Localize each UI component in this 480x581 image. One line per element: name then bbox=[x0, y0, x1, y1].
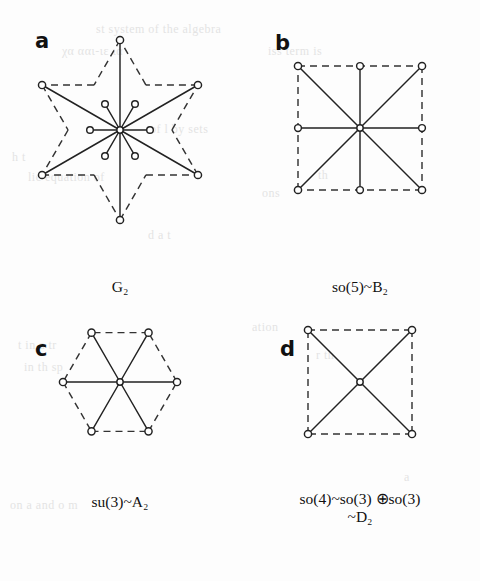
long-root-vector bbox=[120, 85, 198, 130]
origin-node bbox=[357, 125, 363, 131]
long-root-vector bbox=[298, 128, 360, 190]
panel-b-caption: so(5)~B₂ bbox=[240, 278, 480, 296]
panel-d-diagram bbox=[240, 310, 480, 470]
panel-a-letter: a bbox=[35, 31, 49, 52]
short-root-node bbox=[132, 153, 139, 160]
long-root-node bbox=[194, 171, 201, 178]
long-root-vector bbox=[42, 85, 120, 130]
panel-d-caption-line-2: ~D₂ bbox=[240, 508, 480, 526]
hexagram-boundary-edge bbox=[94, 40, 120, 85]
panel-a: a G₂ bbox=[0, 0, 240, 310]
root-vector bbox=[92, 333, 121, 382]
short-root-node bbox=[147, 127, 154, 134]
short-root-node bbox=[419, 125, 426, 132]
panel-d-letter: d bbox=[280, 339, 295, 360]
root-vector bbox=[308, 330, 360, 382]
root-node bbox=[408, 430, 415, 437]
short-root-node bbox=[132, 101, 139, 108]
root-node bbox=[304, 326, 311, 333]
panel-c-letter: c bbox=[35, 339, 47, 360]
root-vector bbox=[92, 382, 121, 431]
long-root-vector bbox=[298, 66, 360, 128]
short-root-node bbox=[102, 153, 109, 160]
panel-c-diagram bbox=[0, 310, 240, 470]
root-vector bbox=[360, 382, 412, 434]
root-vector bbox=[308, 382, 360, 434]
root-node bbox=[59, 378, 66, 385]
origin-node bbox=[117, 127, 123, 133]
hexagram-boundary-edge bbox=[120, 40, 146, 85]
root-node bbox=[145, 329, 152, 336]
long-root-node bbox=[418, 186, 425, 193]
root-vector bbox=[360, 330, 412, 382]
long-root-node bbox=[418, 62, 425, 69]
root-node bbox=[145, 428, 152, 435]
root-system-figure: a G₂ b so(5)~B₂ c su(3)~A₂ d bbox=[0, 0, 480, 581]
panel-a-caption: G₂ bbox=[0, 278, 240, 296]
origin-node bbox=[357, 379, 363, 385]
long-root-vector bbox=[120, 130, 198, 175]
long-root-node bbox=[116, 36, 123, 43]
long-root-vector bbox=[42, 130, 120, 175]
root-node bbox=[173, 378, 180, 385]
panel-d-caption-line-1: so(4)~so(3) ⊕so(3) bbox=[240, 490, 480, 508]
hexagram-boundary-edge bbox=[94, 175, 120, 220]
hexagon-boundary-edge bbox=[63, 382, 92, 431]
panel-b-letter: b bbox=[275, 33, 290, 54]
root-vector bbox=[120, 333, 149, 382]
hexagram-boundary-edge bbox=[120, 175, 146, 220]
long-root-vector bbox=[360, 66, 422, 128]
root-node bbox=[88, 428, 95, 435]
root-vector bbox=[120, 382, 149, 431]
long-root-node bbox=[38, 81, 45, 88]
short-root-node bbox=[87, 127, 94, 134]
panel-c-caption-text: su(3)~A₂ bbox=[92, 493, 149, 510]
panel-b: b so(5)~B₂ bbox=[240, 0, 480, 310]
long-root-node bbox=[194, 81, 201, 88]
long-root-node bbox=[38, 171, 45, 178]
short-root-node bbox=[357, 187, 364, 194]
panel-c: c su(3)~A₂ bbox=[0, 310, 240, 520]
hexagon-boundary-edge bbox=[63, 333, 92, 382]
short-root-node bbox=[295, 125, 302, 132]
panel-d-caption: so(4)~so(3) ⊕so(3) ~D₂ bbox=[240, 490, 480, 527]
origin-node bbox=[117, 379, 123, 385]
long-root-node bbox=[116, 216, 123, 223]
hexagon-boundary-edge bbox=[149, 333, 178, 382]
panel-c-caption: su(3)~A₂ bbox=[0, 493, 240, 511]
root-node bbox=[408, 326, 415, 333]
panel-b-caption-text: so(5)~B₂ bbox=[332, 278, 388, 295]
short-root-node bbox=[102, 101, 109, 108]
root-node bbox=[304, 430, 311, 437]
panel-a-caption-text: G₂ bbox=[112, 278, 129, 295]
long-root-node bbox=[294, 62, 301, 69]
hexagon-boundary-edge bbox=[149, 382, 178, 431]
short-root-node bbox=[357, 63, 364, 70]
long-root-vector bbox=[360, 128, 422, 190]
panel-d: d so(4)~so(3) ⊕so(3) ~D₂ bbox=[240, 310, 480, 540]
root-node bbox=[88, 329, 95, 336]
long-root-node bbox=[294, 186, 301, 193]
